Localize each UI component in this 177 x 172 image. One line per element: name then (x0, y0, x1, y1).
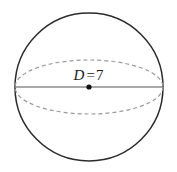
sphere-center-dot (86, 84, 91, 89)
sphere-drawing-canvas (0, 0, 177, 172)
sphere-figure: D=7 (0, 0, 177, 172)
